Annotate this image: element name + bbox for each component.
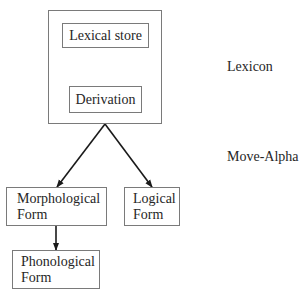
derivation-node: Derivation — [69, 86, 142, 113]
morphological-form-line2: Form — [17, 207, 106, 223]
phonological-form-line1: Phonological — [21, 254, 99, 270]
logical-form-line1: Logical — [133, 191, 179, 207]
morphological-form-node: Morphological Form — [6, 187, 107, 226]
lexicon-side-label: Lexicon — [227, 59, 273, 75]
phonological-form-line2: Form — [21, 270, 99, 286]
logical-form-node: Logical Form — [124, 187, 180, 226]
move-alpha-side-label: Move-Alpha — [227, 149, 299, 165]
arrow-lexicon-to-morphological — [57, 124, 105, 187]
derivation-label: Derivation — [76, 92, 136, 108]
morphological-form-line1: Morphological — [17, 191, 106, 207]
logical-form-line2: Form — [133, 207, 179, 223]
arrow-lexicon-to-logical — [105, 124, 152, 187]
lexical-store-label: Lexical store — [69, 28, 142, 44]
phonological-form-node: Phonological Form — [12, 250, 100, 289]
lexical-store-node: Lexical store — [62, 23, 149, 48]
